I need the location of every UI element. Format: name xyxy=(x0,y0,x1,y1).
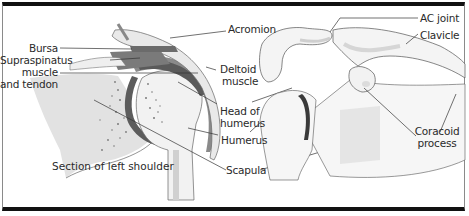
acromion-bone xyxy=(260,28,332,82)
label-ac-joint: AC joint xyxy=(420,13,459,24)
label-coracoid-line1: Coracoid xyxy=(412,126,462,137)
label-supraspinatus-line2: muscle xyxy=(0,67,58,78)
label-bursa: Bursa xyxy=(14,43,58,54)
label-scapula: Scapula xyxy=(226,165,266,176)
figure-caption: Section of left shoulder xyxy=(52,160,174,172)
label-coracoid-line2: process xyxy=(412,138,462,149)
label-supraspinatus-line1: Supraspinatus xyxy=(0,55,58,66)
label-acromion: Acromion xyxy=(228,24,276,35)
label-head-of-humerus-line1: Head of xyxy=(220,106,260,117)
label-deltoid-line1: Deltoid xyxy=(220,64,256,75)
label-humerus: Humerus xyxy=(221,135,267,146)
label-deltoid-line2: muscle xyxy=(222,76,258,87)
bursa xyxy=(130,46,178,52)
label-clavicle: Clavicle xyxy=(420,30,459,41)
label-supraspinatus-line3: and tendon xyxy=(0,79,58,90)
label-head-of-humerus-line2: humerus xyxy=(220,118,265,129)
